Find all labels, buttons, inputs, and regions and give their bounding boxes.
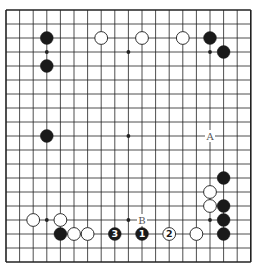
white-stone [27, 214, 40, 227]
black-stone [217, 200, 230, 213]
white-stone [68, 228, 81, 241]
star-point [45, 50, 49, 54]
white-stone [54, 214, 67, 227]
star-point [126, 50, 130, 54]
black-stone [204, 32, 217, 45]
black-stone [40, 32, 53, 45]
marker-label-b: B [138, 215, 145, 226]
move-number-label: 3 [111, 228, 118, 239]
white-stone [95, 32, 108, 45]
black-stone [217, 172, 230, 185]
black-stone [217, 214, 230, 227]
black-stone [54, 228, 67, 241]
white-stone [176, 32, 189, 45]
black-stone [217, 228, 230, 241]
star-point [45, 218, 49, 222]
black-stone [40, 60, 53, 73]
star-point [208, 50, 212, 54]
go-board: AB 312 [0, 0, 253, 272]
move-number-label: 1 [139, 228, 146, 239]
white-stone [190, 228, 203, 241]
white-stone [204, 200, 217, 213]
star-point [126, 134, 130, 138]
black-stone [217, 46, 230, 59]
white-stone [204, 186, 217, 199]
star-point [208, 218, 212, 222]
marker-label-a: A [205, 131, 214, 142]
black-stone [40, 130, 53, 143]
move-number-label: 2 [166, 228, 173, 239]
white-stone [81, 228, 94, 241]
star-point [126, 218, 130, 222]
white-stone [136, 32, 149, 45]
